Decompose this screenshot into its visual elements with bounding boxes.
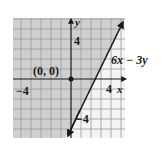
origin-label: (0, 0): [33, 64, 59, 78]
graph: y 4 (0, 0) −4 4 x −4 6x − 3y: [0, 0, 165, 145]
x-tick-neg4: −4: [16, 84, 29, 98]
y-axis-label: y: [73, 16, 80, 28]
y-tick-neg4: −4: [76, 112, 89, 126]
test-point: [69, 77, 74, 82]
x-axis-label: x: [116, 83, 123, 95]
equation-label: 6x − 3y: [111, 53, 148, 67]
y-tick-4: 4: [74, 34, 80, 48]
x-tick-4: 4: [106, 82, 112, 96]
